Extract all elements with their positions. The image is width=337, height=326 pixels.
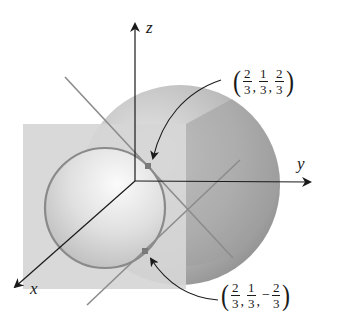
point-lower-label: ( 23 , 13 , − 23 ) [220, 280, 291, 310]
point-lower-marker [142, 248, 148, 254]
fraction: 13 [259, 67, 268, 96]
point-upper-label: ( 23 , 13 , 23 ) [232, 66, 295, 96]
fraction: 23 [275, 67, 284, 96]
fraction: 23 [243, 67, 252, 96]
z-axis-label: z [146, 19, 153, 36]
x-axis-label: x [30, 280, 38, 297]
fraction: 13 [247, 281, 256, 310]
y-axis-label: y [297, 155, 305, 172]
point-upper-marker [145, 163, 151, 169]
fraction: 23 [272, 281, 281, 310]
fraction: 23 [231, 281, 240, 310]
sphere-shadow-side [186, 99, 280, 266]
